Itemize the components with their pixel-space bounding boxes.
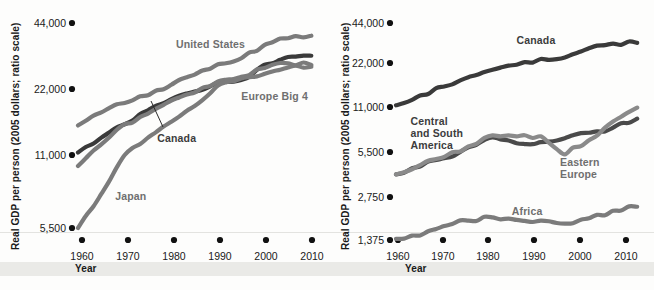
y-tick-dot [387,237,393,243]
y-tick-label: 2,750 [358,191,384,203]
right-series-label-group: CanadaCentraland SouthAmericaEasternEuro… [410,34,599,217]
y-tick-label: 44,000 [34,17,66,29]
figure-page: Real GDP per person (2005 dollars; ratio… [0,0,654,290]
y-tick-dot [69,225,75,231]
y-tick-label: 11,000 [35,149,66,161]
x-tick-dot [171,237,177,243]
x-tick-label: 2000 [568,250,592,262]
y-tick-label: 22,000 [352,57,384,69]
right-y-tick-group: 44,00022,00011,0005,5002,7501,375 [352,17,393,246]
series-label-central-and-south-america: and South [410,127,463,139]
series-label-japan: Japan [115,190,146,202]
y-tick-dot [69,152,75,158]
series-line-canada [396,41,637,105]
series-label-eastern-europe: Europe [560,168,597,180]
left-y-axis-title: Real GDP per person (2005 dollars; ratio… [10,23,21,250]
x-tick-dot [623,237,629,243]
left-chart-svg: Real GDP per person (2005 dollars; ratio… [0,0,330,290]
x-tick-dot [577,237,583,243]
right-x-tick-group: 196019701980199020002010 [386,237,638,262]
chart-panel-left: Real GDP per person (2005 dollars; ratio… [0,0,330,290]
x-tick-label: 1970 [431,250,455,262]
y-tick-label: 22,000 [34,83,66,95]
x-tick-dot [485,237,491,243]
right-y-axis-title: Real GDP per person (2005 dollars; ratio… [340,23,351,250]
series-label-central-and-south-america: Central [410,115,447,127]
x-tick-dot [440,237,446,243]
y-tick-dot [387,149,393,155]
series-line-europe-big-4 [78,62,311,166]
x-tick-label: 1960 [386,250,410,262]
series-label-africa: Africa [512,205,543,217]
left-x-tick-group: 196019701980199020002010 [70,237,324,262]
right-y-axis-title-text: Real GDP per person (2005 dollars; ratio… [340,23,351,250]
y-tick-label: 5,500 [40,222,66,234]
x-tick-dot [531,237,537,243]
left-y-axis-title-text: Real GDP per person (2005 dollars; ratio… [10,23,21,250]
series-label-canada: Canada [517,34,556,46]
x-tick-label: 1970 [116,250,140,262]
y-tick-dot [387,60,393,66]
x-tick-label: 2010 [300,250,324,262]
series-label-central-and-south-america: America [410,139,453,151]
series-label-united-states: United States [176,38,245,50]
x-tick-label: 1990 [522,250,546,262]
y-tick-label: 44,000 [352,17,384,29]
x-tick-dot [263,237,269,243]
x-tick-dot [79,237,85,243]
y-tick-dot [69,20,75,26]
left-y-tick-group: 44,00022,00011,0005,500 [34,17,75,234]
x-tick-label: 1980 [162,250,186,262]
x-tick-dot [125,237,131,243]
y-tick-dot [387,194,393,200]
x-tick-dot [309,237,315,243]
y-tick-dot [69,86,75,92]
x-tick-dot [217,237,223,243]
right-chart-svg: Real GDP per person (2005 dollars; ratio… [330,0,654,290]
y-tick-label: 5,500 [358,146,384,158]
chart-panel-right: Real GDP per person (2005 dollars; ratio… [330,0,654,290]
x-tick-label: 2000 [254,250,278,262]
y-tick-label: 11,000 [353,101,384,113]
y-tick-dot [387,104,393,110]
x-tick-label: 1960 [70,250,94,262]
x-tick-label: 1990 [208,250,232,262]
series-label-europe-big-4: Europe Big 4 [241,90,308,102]
left-x-axis-title: Year [75,263,97,274]
right-x-axis-title: Year [405,263,427,274]
series-label-eastern-europe: Eastern [560,156,600,168]
series-label-canada: Canada [157,132,196,144]
y-tick-label: 1,375 [358,234,384,246]
x-tick-label: 2010 [614,250,638,262]
y-tick-dot [387,20,393,26]
x-tick-label: 1980 [476,250,500,262]
